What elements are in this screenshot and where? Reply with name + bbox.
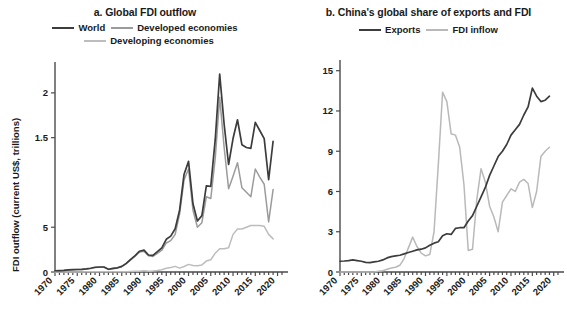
svg-text:3: 3: [328, 226, 333, 237]
svg-text:6: 6: [328, 186, 333, 197]
svg-text:2000: 2000: [165, 275, 188, 298]
svg-text:2015: 2015: [232, 274, 255, 297]
svg-text:1.5: 1.5: [35, 132, 49, 143]
svg-text:1990: 1990: [402, 275, 425, 298]
svg-text:1970: 1970: [317, 275, 340, 298]
svg-text:15: 15: [322, 65, 333, 76]
svg-text:1980: 1980: [76, 275, 99, 298]
svg-text:2015: 2015: [509, 274, 532, 297]
svg-text:2000: 2000: [445, 275, 468, 298]
svg-text:2010: 2010: [488, 275, 511, 298]
chart-b-plot: 0369121519701975198019851990199520002005…: [290, 0, 567, 310]
figure-root: a. Global FDI outflow World Developed ec…: [0, 0, 567, 310]
svg-text:1985: 1985: [98, 274, 121, 297]
chart-panel-china-global-share: b. China's global share of exports and F…: [290, 0, 567, 310]
svg-text:12: 12: [322, 105, 333, 116]
svg-text:1990: 1990: [121, 275, 144, 298]
svg-text:2020: 2020: [254, 275, 277, 298]
svg-text:1995: 1995: [143, 274, 166, 297]
svg-text:2005: 2005: [187, 274, 210, 297]
chart-a-plot: 051.521970197519801985199019952000200520…: [0, 0, 290, 310]
svg-text:1975: 1975: [338, 274, 361, 297]
svg-text:9: 9: [328, 146, 333, 157]
svg-text:1995: 1995: [424, 274, 447, 297]
svg-text:2: 2: [43, 87, 48, 98]
svg-text:1985: 1985: [381, 274, 404, 297]
svg-text:1975: 1975: [54, 274, 77, 297]
svg-text:1970: 1970: [32, 275, 55, 298]
svg-text:2010: 2010: [210, 275, 233, 298]
chart-panel-global-fdi-outflow: a. Global FDI outflow World Developed ec…: [0, 0, 290, 310]
svg-text:2005: 2005: [466, 274, 489, 297]
svg-text:1980: 1980: [359, 275, 382, 298]
svg-text:5: 5: [43, 222, 49, 233]
svg-text:2020: 2020: [530, 275, 553, 298]
